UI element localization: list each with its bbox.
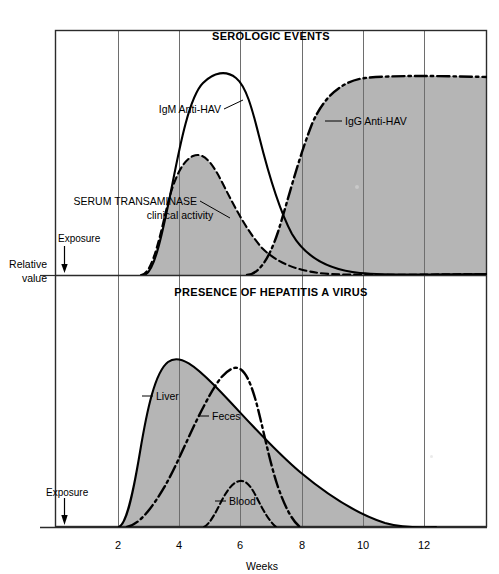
curve-label-blood: Blood [229,495,256,507]
panel-title-serologic-events: SEROLOGIC EVENTS [212,30,330,42]
chart-svg: SEROLOGIC EVENTS PRESENCE OF HEPATITIS A… [0,0,499,574]
curve-label-igm-anti-hav: IgM Anti-HAV [159,103,221,115]
curve-label-serum-transaminase: SERUM TRANSAMINASE [74,195,198,207]
x-tick-label-8: 8 [299,539,305,551]
curve-label-liver: Liver [156,390,179,402]
hepatitis-a-figure: SEROLOGIC EVENTS PRESENCE OF HEPATITIS A… [0,0,499,574]
curve-label-igg-anti-hav: IgG Anti-HAV [345,115,407,127]
x-tick-label-12: 12 [418,539,430,551]
y-axis-label-line2: value [22,272,47,284]
scan-artifact [430,455,433,458]
x-axis-label: Weeks [246,560,278,572]
panel-title-presence-of-virus: PRESENCE OF HEPATITIS A VIRUS [174,286,367,298]
exposure-label-top: Exposure [58,233,101,244]
x-tick-label-2: 2 [115,539,121,551]
x-tick-label-10: 10 [357,539,369,551]
y-axis-label-line1: Relative [9,258,47,270]
x-tick-label-4: 4 [176,539,182,551]
scan-artifact [355,185,359,189]
exposure-label-bottom: Exposure [46,487,89,498]
curve-label-feces: Feces [212,410,241,422]
curve-label-clinical-activity: clinical activity [147,209,214,221]
x-tick-label-6: 6 [237,539,243,551]
